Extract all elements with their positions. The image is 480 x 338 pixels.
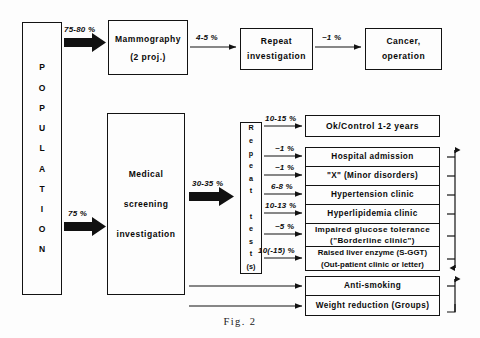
lifestyle-outcome-stack: Anti-smoking Weight reduction (Groups) [305,276,440,316]
outcome-row-weight-reduction: Weight reduction (Groups) [306,296,439,315]
population-letter: N [39,239,45,259]
node-mammography: Mammography (2 proj.) [108,20,188,75]
repeat-tests-letter: s [249,236,253,249]
label-tests-to-liver: 10(-15) % [258,246,295,255]
population-letter: I [41,199,43,219]
medical-screening-line3: investigation [117,219,176,249]
clinic-group-bracket [447,150,455,268]
arrow-screening-to-tests [189,187,234,206]
population-letter: T [39,179,44,199]
node-cancer-operation: Cancer, operation [365,28,442,70]
arrow-population-to-mammography [64,33,106,52]
cancer-line2: operation [382,49,425,64]
label-screening-to-tests: 30-35 % [192,179,223,188]
outcome-sublabel: ("Borderline clinic") [330,235,415,247]
outcome-label: Hospital admission [331,151,413,163]
outcome-row-impaired-glucose-tolerance: Impaired glucose tolerance ("Borderline … [306,224,439,247]
label-mammography-to-repeat: 4-5 % [196,33,218,42]
repeat-tests-letter: a [249,173,253,186]
repeat-tests-letter: (s) [247,261,256,274]
node-repeat-investigation: Repeat investigation [240,28,313,70]
node-ok-control: Ok/Control 1-2 years [305,115,440,137]
medical-screening-line1: Medical [129,159,164,189]
outcome-label: Hyperlipidemia clinic [327,208,417,220]
repeat-tests-letter: p [249,148,253,161]
label-repeat-to-cancer: ~1 % [322,33,341,42]
repeat-tests-letter: t [250,248,252,261]
figure-caption: Fig. 2 [0,316,480,327]
clinic-outcome-stack: Hospital admission "X" (Minor disorders)… [305,147,440,271]
outcome-label: "X" (Minor disorders) [327,170,418,182]
label-pop-to-screening: 75 % [68,209,87,218]
repeat-investigation-line1: Repeat [261,34,292,49]
outcome-row-hospital-admission: Hospital admission [306,148,439,167]
repeat-tests-letter: e [249,135,253,148]
outcome-row-hyperlipidemia-clinic: Hyperlipidemia clinic [306,205,439,224]
mammography-line2: (2 proj.) [130,48,166,66]
population-letter: O [39,78,46,98]
outcome-label: Weight reduction (Groups) [316,300,430,312]
repeat-tests-letter: t [250,185,252,198]
repeat-tests-letter: t [250,211,252,224]
outcome-row-anti-smoking: Anti-smoking [306,277,439,296]
node-medical-screening: Medical screening investigation [107,113,185,295]
flowchart-diagram: P O P U L A T I O N Mammography (2 proj.… [0,0,480,338]
outcome-label: Hypertension clinic [331,189,414,201]
outcome-label: Raised liver enzyme (S-GGT) [318,247,427,259]
outcome-row-minor-disorders: "X" (Minor disorders) [306,167,439,186]
outcome-row-hypertension-clinic: Hypertension clinic [306,186,439,205]
population-letter: O [39,219,46,239]
repeat-tests-gap [250,198,252,211]
label-tests-to-glucose: ~5 % [275,222,294,231]
repeat-tests-letter: R [248,122,253,135]
label-tests-to-minor: ~1 % [275,163,294,172]
label-tests-to-hospital: ~1 % [275,144,294,153]
mammography-line1: Mammography [115,30,181,48]
population-letter: L [39,138,44,158]
ok-control-label: Ok/Control 1-2 years [326,120,419,132]
outcome-label: Anti-smoking [344,280,401,292]
outcome-row-raised-liver-enzyme: Raised liver enzyme (S-GGT) (Out-patient… [306,247,439,270]
repeat-tests-letter: e [249,223,253,236]
outcome-sublabel: (Out-patient clinic or letter) [321,259,424,271]
cancer-line1: Cancer, [386,34,420,49]
outcome-label: Impaired glucose tolerance [315,224,430,236]
medical-screening-line2: screening [124,189,169,219]
label-pop-to-mammography: 75-80 % [64,25,95,34]
lifestyle-group-bracket [447,279,455,312]
arrow-population-to-screening [64,217,106,236]
repeat-investigation-line2: investigation [247,49,306,64]
population-letter: U [39,118,45,138]
population-letter: P [39,98,45,118]
node-population: P O P U L A T I O N [22,22,62,295]
repeat-tests-letter: e [249,160,253,173]
population-letter: P [39,57,45,77]
population-letter: A [39,159,45,179]
label-tests-to-hypertension: 6-8 % [271,182,293,191]
label-tests-to-ok: 10-15 % [265,114,296,123]
label-tests-to-hyperlipidemia: 10-13 % [265,201,296,210]
